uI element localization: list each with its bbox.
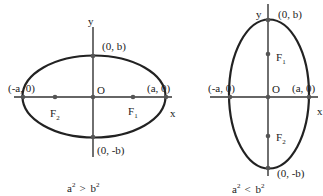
- focus-f2-point: [266, 134, 271, 139]
- x-axis-label: x: [170, 107, 176, 119]
- y-axis-label: y: [88, 15, 94, 27]
- ellipse-diagrams: y x O (0, b) (0, -b) (-a, 0) (a, 0) F2 F…: [0, 0, 323, 196]
- vertex-left-point: [228, 95, 233, 100]
- x-axis-label: x: [317, 105, 323, 117]
- origin-label: O: [272, 83, 280, 95]
- vertex-right-point: [164, 95, 169, 100]
- vertex-right-label: (a, 0): [147, 82, 171, 95]
- caption-a-lt-b: a2<b2: [232, 182, 265, 195]
- focus-f1-point: [266, 52, 271, 57]
- focus-f1-label: F1: [276, 51, 286, 66]
- vertex-bottom-label: (0, -b): [97, 144, 125, 157]
- focus-f2-point: [53, 95, 58, 100]
- vertex-left-label: (-a, 0): [8, 82, 35, 95]
- vertex-top-point: [266, 18, 271, 23]
- vertex-left-point: [21, 95, 26, 100]
- origin-point: [91, 95, 96, 100]
- figure-vertical-ellipse: y x O (0, b) (0, -b) (-a, 0) (a, 0) F1 F…: [208, 4, 323, 195]
- origin-point: [266, 95, 271, 100]
- vertex-top-label: (0, b): [102, 40, 126, 53]
- vertex-bottom-label: (0, -b): [277, 167, 305, 180]
- vertex-bottom-point: [266, 166, 271, 171]
- y-axis-label: y: [256, 8, 262, 20]
- focus-f2-label: F2: [276, 131, 286, 146]
- focus-f2-label: F2: [50, 107, 60, 122]
- ellipse-curve: [229, 20, 309, 169]
- vertex-left-label: (-a, 0): [208, 82, 235, 95]
- vertex-top-label: (0, b): [278, 8, 302, 21]
- origin-label: O: [97, 84, 105, 96]
- vertex-right-point: [307, 95, 312, 100]
- focus-f1-point: [131, 95, 136, 100]
- vertex-right-label: (a, 0): [292, 82, 316, 95]
- vertex-top-point: [91, 54, 96, 59]
- focus-f1-label: F1: [128, 105, 138, 120]
- vertex-bottom-point: [91, 135, 96, 140]
- figure-horizontal-ellipse: y x O (0, b) (0, -b) (-a, 0) (a, 0) F2 F…: [8, 15, 176, 194]
- caption-a-gt-b: a2>b2: [67, 181, 100, 194]
